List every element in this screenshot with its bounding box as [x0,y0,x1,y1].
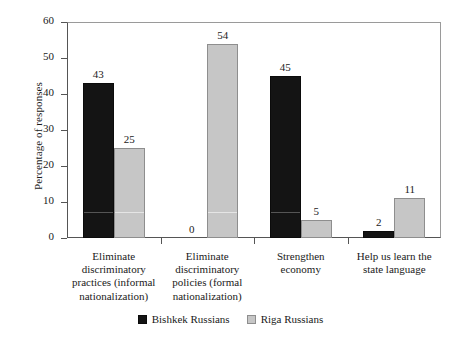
bar [301,220,332,238]
legend-label: Riga Russians [261,313,324,325]
x-tick-mark [348,238,349,244]
bar-value-label: 11 [388,183,431,195]
scan-streak [84,212,113,213]
legend-swatch-icon [247,315,256,324]
x-tick-mark [161,238,162,244]
legend-entry-0: Bishkek Russians [138,313,230,325]
bar-value-label: 5 [295,205,338,217]
y-tick-label: 20 [43,158,54,170]
y-tick-mark [61,202,67,203]
bar-value-label: 43 [77,68,120,80]
legend-swatch-icon [138,315,147,324]
bar-value-label: 25 [108,133,151,145]
y-tick-mark [61,22,67,23]
bar [83,83,114,238]
y-tick-label: 10 [43,194,54,206]
legend-entry-1: Riga Russians [247,313,324,325]
bar [363,231,394,238]
y-tick-label: 30 [43,122,54,134]
bar-value-label: 45 [264,61,307,73]
y-tick-label: 60 [43,14,54,26]
x-tick-mark [254,238,255,244]
scan-streak [208,212,237,213]
bar [207,44,238,238]
bar-value-label: 54 [201,29,244,41]
y-tick-mark [61,166,67,167]
y-tick-mark [61,130,67,131]
y-axis-title: Percentage of responses [32,36,44,236]
y-tick-label: 40 [43,86,54,98]
y-tick-label: 50 [43,50,54,62]
bar [114,148,145,238]
scan-streak [115,212,144,213]
chart-legend: Bishkek RussiansRiga Russians [0,313,461,325]
category-label-3: Help us learn the state language [338,250,450,276]
y-tick-mark [61,238,67,239]
bar [394,198,425,238]
bar-chart: Percentage of responses 0102030405060 43… [0,0,461,344]
legend-label: Bishkek Russians [152,313,230,325]
y-tick-mark [61,58,67,59]
y-tick-label: 0 [49,230,55,242]
y-tick-mark [61,94,67,95]
